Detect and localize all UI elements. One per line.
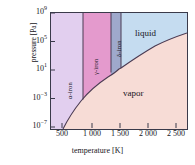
x-tick-label-1500: 1 500 (111, 130, 129, 138)
y-tick-label-1e1: 101 (36, 65, 47, 73)
phase-diagram-svg (51, 13, 187, 129)
plot-area: liquid vapor α-iron γ-iron δ-iron (50, 12, 188, 130)
y-tick-label-1e9: 109 (36, 8, 47, 16)
y-exp-5: 5 (44, 34, 47, 40)
y-exp-1: 1 (44, 62, 47, 68)
x-tick-label-500: 500 (56, 130, 68, 138)
y-exp-9: 9 (44, 5, 47, 11)
x-tick-label-2000: 2 000 (139, 130, 157, 138)
y-tick-label-1e5: 105 (36, 37, 47, 45)
y-tick-label-1e-7: 10−7 (33, 122, 47, 130)
x-axis-title: temperature [K] (0, 146, 195, 155)
x-tick-label-1000: 1 000 (83, 130, 101, 138)
y-tick-label-1e-3: 10−3 (33, 94, 47, 102)
y-exp-m7: −7 (41, 119, 47, 125)
x-tick-label-2500: 2 500 (167, 130, 185, 138)
y-axis-title: pressure [Pa] (29, 3, 38, 83)
phase-diagram-figure: liquid vapor α-iron γ-iron δ-iron 109 10… (0, 0, 195, 165)
y-exp-m3: −3 (41, 91, 47, 97)
x-tick-label-group: 500 1 000 1 500 2 000 2 500 (0, 130, 195, 144)
